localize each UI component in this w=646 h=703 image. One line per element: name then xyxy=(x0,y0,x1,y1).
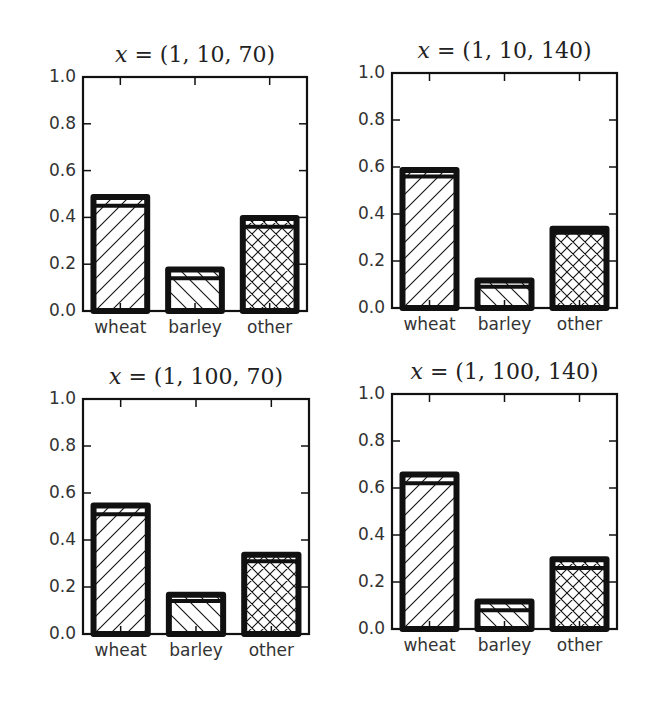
title-value: = (1, 10, 70) xyxy=(127,42,275,67)
y-tick-label: 0.4 xyxy=(345,524,385,544)
y-tick-label: 0.0 xyxy=(345,297,385,317)
y-tick-label: 1.0 xyxy=(36,388,76,408)
x-tick-label: wheat xyxy=(85,317,155,337)
y-tick-label: 0.4 xyxy=(36,529,76,549)
title-variable: x xyxy=(418,38,430,63)
x-tick-label: other xyxy=(545,314,615,334)
y-tick-label: 1.0 xyxy=(345,62,385,82)
y-tick-label: 0.2 xyxy=(345,571,385,591)
x-tick-label: barley xyxy=(160,317,230,337)
y-tick-label: 0.6 xyxy=(345,156,385,176)
y-tick-label: 0.2 xyxy=(345,250,385,270)
y-tick-label: 1.0 xyxy=(36,66,76,86)
plot-area xyxy=(78,394,314,639)
plot-area xyxy=(387,389,622,634)
y-tick-label: 1.0 xyxy=(345,383,385,403)
y-tick-label: 0.6 xyxy=(36,160,76,180)
y-tick-label: 0.4 xyxy=(36,206,76,226)
subplot-title: x = (1, 100, 70) xyxy=(83,364,309,389)
title-variable: x xyxy=(109,364,121,389)
bar-wheat xyxy=(94,505,148,634)
subplot-title: x = (1, 100, 140) xyxy=(392,359,617,384)
bar-wheat xyxy=(93,197,147,311)
y-tick-label: 0.0 xyxy=(36,300,76,320)
y-tick-label: 0.8 xyxy=(36,435,76,455)
x-tick-label: wheat xyxy=(86,640,156,660)
bar-wheat xyxy=(403,475,457,629)
subplot-title: x = (1, 10, 70) xyxy=(83,42,307,67)
x-tick-label: other xyxy=(235,317,305,337)
bar-wheat xyxy=(403,170,457,308)
y-tick-label: 0.8 xyxy=(345,430,385,450)
bar-other xyxy=(244,555,298,634)
bar-other xyxy=(553,559,607,629)
title-variable: x xyxy=(115,42,127,67)
x-tick-label: barley xyxy=(161,640,231,660)
plot-area xyxy=(78,72,312,316)
y-tick-label: 0.6 xyxy=(345,477,385,497)
y-tick-label: 0.0 xyxy=(345,618,385,638)
title-value: = (1, 100, 70) xyxy=(121,364,283,389)
y-tick-label: 0.8 xyxy=(36,113,76,133)
y-tick-label: 0.0 xyxy=(36,623,76,643)
bar-other xyxy=(553,229,607,308)
bar-other xyxy=(243,218,297,311)
y-tick-label: 0.4 xyxy=(345,203,385,223)
y-tick-label: 0.8 xyxy=(345,109,385,129)
y-tick-label: 0.2 xyxy=(36,253,76,273)
y-tick-label: 0.6 xyxy=(36,482,76,502)
x-tick-label: other xyxy=(236,640,306,660)
x-tick-label: other xyxy=(545,635,615,655)
x-tick-label: wheat xyxy=(395,314,465,334)
title-value: = (1, 10, 140) xyxy=(430,38,592,63)
title-value: = (1, 100, 140) xyxy=(423,359,599,384)
title-variable: x xyxy=(411,359,423,384)
x-tick-label: wheat xyxy=(395,635,465,655)
subplot-title: x = (1, 10, 140) xyxy=(392,38,617,63)
y-tick-label: 0.2 xyxy=(36,576,76,596)
x-tick-label: barley xyxy=(470,635,540,655)
x-tick-label: barley xyxy=(470,314,540,334)
plot-area xyxy=(387,68,622,313)
